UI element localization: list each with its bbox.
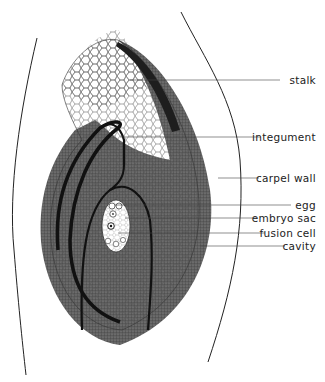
antipodal-1 (105, 238, 111, 244)
ovule-diagram (0, 0, 325, 382)
synergid-cell (109, 203, 115, 209)
label-carpel-wall: carpel wall (256, 172, 316, 184)
label-fusion-cell: fusion cell (259, 227, 316, 239)
carpel-wall-left-line (12, 38, 37, 375)
label-integument: integument (252, 131, 316, 143)
label-cavity: cavity (283, 240, 316, 252)
synergid-cell-2 (116, 203, 122, 209)
label-embryo-sac: embryo sac (252, 212, 316, 224)
antipodal-3 (120, 237, 125, 242)
label-egg: egg (295, 199, 316, 211)
label-stalk: stalk (289, 74, 316, 86)
antipodal-2 (113, 241, 119, 247)
